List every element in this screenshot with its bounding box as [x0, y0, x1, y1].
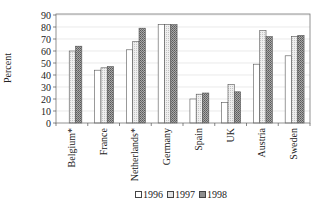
y-tick-label: 20 [41, 94, 51, 105]
y-tick-label: 30 [41, 82, 51, 93]
legend-label: 1997 [175, 189, 195, 200]
y-axis-label: Percent [2, 53, 13, 83]
bar-1997-uk [228, 85, 234, 123]
bar-1998-spain [203, 93, 209, 123]
bar-1997-austria [260, 31, 266, 123]
bar-1996-france [95, 70, 101, 123]
bar-1997-spain [196, 94, 202, 123]
y-axis-ticks: 0102030405060708090 [41, 10, 56, 129]
legend-item-1998: 1998 [199, 189, 227, 200]
bar-1996-spain [190, 99, 196, 123]
bar-1997-netherlands [133, 41, 139, 123]
bar-1998-belgium [76, 46, 82, 123]
x-category-label: Germany [161, 128, 172, 165]
bar-1996-sweden [285, 56, 291, 123]
bar-1998-germany [171, 25, 177, 123]
bar-1998-france [107, 67, 113, 123]
legend-label: 1996 [143, 189, 163, 200]
bar-1998-sweden [298, 35, 304, 123]
bar-1997-germany [164, 25, 170, 123]
legend-item-1997: 1997 [167, 189, 195, 200]
x-category-label: France [98, 127, 109, 155]
x-category-label: Spain [193, 128, 204, 151]
x-category-label: Belgium* [66, 128, 77, 167]
bar-1998-uk [234, 92, 240, 123]
x-category-label: Netherlands* [129, 128, 140, 181]
bar-1996-uk [222, 103, 228, 123]
bars [69, 25, 304, 123]
legend: 1996 1997 1998 [135, 189, 229, 200]
y-tick-label: 50 [41, 58, 51, 69]
bar-1996-austria [253, 64, 259, 123]
bar-1996-netherlands [126, 50, 132, 123]
bar-1997-france [101, 68, 107, 123]
legend-swatch-1998 [199, 191, 206, 198]
y-tick-label: 10 [41, 106, 51, 117]
legend-item-1996: 1996 [135, 189, 163, 200]
x-axis-categories: Belgium*FranceNetherlands*GermanySpainUK… [66, 127, 299, 181]
y-tick-label: 0 [46, 118, 51, 129]
y-tick-label: 70 [41, 34, 51, 45]
y-tick-label: 90 [41, 10, 51, 21]
x-category-label: Sweden [288, 128, 299, 160]
bar-chart: 0102030405060708090 Belgium*FranceNether… [0, 0, 325, 188]
bar-1998-netherlands [139, 28, 145, 123]
legend-label: 1998 [207, 189, 227, 200]
bar-1997-belgium [69, 51, 75, 123]
y-tick-label: 40 [41, 70, 51, 81]
bar-1998-austria [266, 37, 272, 123]
x-category-label: Austria [256, 127, 267, 157]
legend-swatch-1997 [167, 191, 174, 198]
x-category-label: UK [225, 127, 236, 142]
legend-swatch-1996 [135, 191, 142, 198]
bar-1996-germany [158, 25, 164, 123]
y-tick-label: 80 [41, 22, 51, 33]
bar-1997-sweden [291, 37, 297, 123]
y-tick-label: 60 [41, 46, 51, 57]
